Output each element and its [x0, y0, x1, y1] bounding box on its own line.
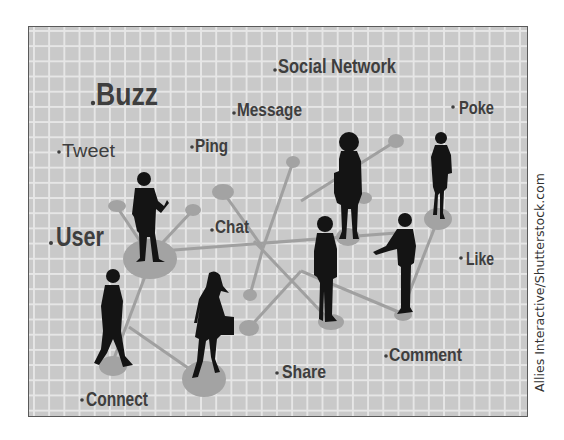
woman-with-folder-figure [334, 132, 362, 239]
walking-man-figure [94, 269, 133, 367]
label-ping: Ping [195, 136, 228, 156]
label-tweet: Tweet [62, 141, 115, 161]
small-node [108, 200, 126, 212]
label-message: Message [237, 100, 302, 120]
label-buzz: Buzz [96, 77, 158, 112]
image-credit: Allies Interactive/Shutterstock.com [532, 173, 547, 392]
man-pointing-figure [373, 213, 416, 314]
share-node [182, 361, 226, 397]
label-comment: Comment [389, 345, 462, 365]
small-node [212, 184, 234, 200]
label-chat: Chat [215, 217, 249, 237]
small-node [239, 320, 259, 336]
small-node [286, 156, 300, 168]
label-like: Like [466, 249, 494, 269]
label-social-network: Social Network [278, 54, 396, 77]
woman-with-handbag-figure [192, 271, 234, 378]
network-scene: Buzz Social Network Message Poke Tweet P… [29, 27, 527, 416]
small-node [243, 289, 257, 301]
label-user: User [56, 222, 104, 252]
illustration-frame: Buzz Social Network Message Poke Tweet P… [28, 26, 528, 417]
poke-node [424, 208, 452, 230]
standing-woman-figure [431, 132, 452, 219]
label-poke: Poke [459, 98, 494, 118]
label-share: Share [282, 361, 326, 382]
user-node [123, 239, 177, 279]
small-node [185, 204, 201, 216]
label-connect: Connect [86, 388, 148, 410]
small-node [388, 134, 404, 148]
